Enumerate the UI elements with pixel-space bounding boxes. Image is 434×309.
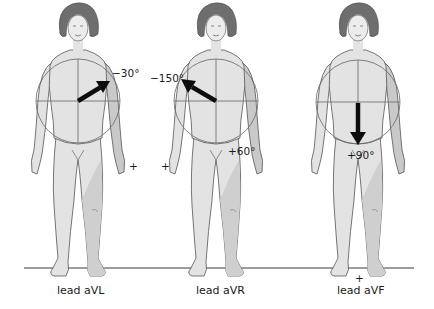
secondary-angle-label: +60° [228, 145, 255, 157]
lead-caption: lead aVL [57, 284, 105, 297]
plus-marker: + [129, 160, 138, 172]
hexaxial-lead-diagram: −30° + lead aVL −150° +60° + lead aVR +9… [0, 0, 434, 309]
figure-avf: +90° + lead aVF [311, 3, 404, 297]
angle-label: +90° [347, 149, 374, 161]
plus-marker: + [355, 272, 364, 284]
angle-label: −150° [150, 72, 184, 84]
lead-caption: lead aVF [337, 284, 385, 297]
angle-label: −30° [112, 67, 139, 79]
figure-avl: −30° + lead aVL [31, 3, 139, 297]
lead-caption: lead aVR [196, 284, 245, 297]
plus-marker: + [161, 160, 170, 172]
figure-avr: −150° +60° + lead aVR [150, 3, 263, 297]
